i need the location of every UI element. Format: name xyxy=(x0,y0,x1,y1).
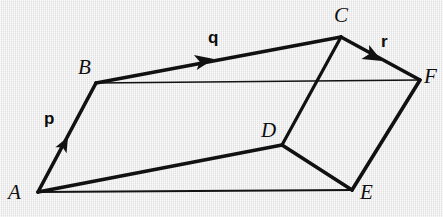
edge-EF xyxy=(352,80,420,190)
edge-CD xyxy=(282,37,341,145)
vertex-label-F: F xyxy=(424,66,437,87)
parallelepiped-diagram xyxy=(0,0,443,217)
edge-BF xyxy=(96,80,420,83)
vector-label-p: p xyxy=(44,110,54,127)
vertex-label-C: C xyxy=(334,5,348,26)
edge-AD xyxy=(38,145,282,192)
edge-BC xyxy=(96,37,341,83)
vertex-label-D: D xyxy=(261,120,276,141)
edge-AE xyxy=(38,190,352,192)
vector-p-arrowhead xyxy=(55,134,73,153)
vertex-label-A: A xyxy=(8,182,21,203)
vector-label-q: q xyxy=(208,29,218,46)
geometry-figure: A B C D E F p q r xyxy=(0,0,443,217)
edge-AB xyxy=(38,83,96,192)
vertex-label-E: E xyxy=(360,182,373,203)
edge-DE xyxy=(282,145,352,190)
vertex-label-B: B xyxy=(78,57,91,78)
vector-label-r: r xyxy=(381,33,388,50)
